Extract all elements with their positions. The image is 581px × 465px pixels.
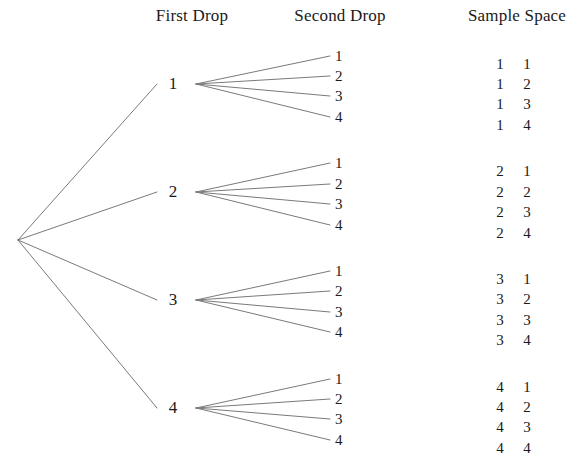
outcome-second-value: 4 bbox=[523, 225, 531, 242]
outcome-first-value: 3 bbox=[496, 312, 504, 329]
outcome-second-value: 3 bbox=[523, 96, 531, 113]
outcome-second-value: 1 bbox=[523, 56, 531, 73]
second-drop-leaf-label: 2 bbox=[335, 391, 343, 408]
second-drop-leaf-label: 4 bbox=[335, 432, 343, 449]
second-drop-leaf-label: 3 bbox=[335, 304, 343, 321]
first-drop-node-1: 1 bbox=[169, 74, 178, 94]
outcome-first-value: 2 bbox=[496, 184, 504, 201]
outcome-second-value: 3 bbox=[523, 312, 531, 329]
second-drop-leaf-label: 3 bbox=[335, 196, 343, 213]
first-drop-branch-line bbox=[18, 240, 157, 300]
second-drop-leaf-label: 1 bbox=[335, 48, 343, 65]
outcome-second-value: 3 bbox=[523, 419, 531, 436]
first-drop-branch-line bbox=[18, 84, 157, 240]
second-drop-leaf-label: 3 bbox=[335, 88, 343, 105]
second-drop-branch-line bbox=[196, 408, 330, 419]
probability-tree-diagram: First DropSecond DropSample Space 1234 1… bbox=[0, 0, 581, 465]
tree-branch-lines bbox=[0, 0, 581, 465]
outcome-first-value: 1 bbox=[496, 56, 504, 73]
second-drop-leaf-label: 1 bbox=[335, 155, 343, 172]
second-drop-branch-line bbox=[196, 192, 330, 225]
outcome-second-value: 4 bbox=[523, 440, 531, 457]
outcome-second-value: 1 bbox=[523, 271, 531, 288]
second-drop-leaf-label: 4 bbox=[335, 109, 343, 126]
second-drop-leaf-label: 2 bbox=[335, 283, 343, 300]
outcome-first-value: 4 bbox=[496, 379, 504, 396]
second-drop-leaf-label: 1 bbox=[335, 371, 343, 388]
first-drop-node-4: 4 bbox=[169, 398, 178, 418]
second-drop-branch-line bbox=[196, 84, 330, 117]
outcome-first-value: 1 bbox=[496, 76, 504, 93]
column-header: Sample Space bbox=[468, 6, 566, 26]
outcome-first-value: 3 bbox=[496, 291, 504, 308]
outcome-first-value: 4 bbox=[496, 419, 504, 436]
outcome-first-value: 2 bbox=[496, 204, 504, 221]
second-drop-branch-line bbox=[196, 300, 330, 332]
outcome-second-value: 2 bbox=[523, 184, 531, 201]
first-drop-node-2: 2 bbox=[169, 182, 178, 202]
second-drop-leaf-label: 3 bbox=[335, 411, 343, 428]
outcome-second-value: 2 bbox=[523, 399, 531, 416]
column-header: First Drop bbox=[156, 6, 228, 26]
outcome-second-value: 2 bbox=[523, 291, 531, 308]
outcome-first-value: 4 bbox=[496, 440, 504, 457]
first-drop-branch-line bbox=[18, 240, 157, 408]
outcome-second-value: 3 bbox=[523, 204, 531, 221]
outcome-first-value: 3 bbox=[496, 332, 504, 349]
second-drop-leaf-label: 1 bbox=[335, 263, 343, 280]
second-drop-leaf-label: 2 bbox=[335, 68, 343, 85]
outcome-second-value: 2 bbox=[523, 76, 531, 93]
second-drop-leaf-label: 4 bbox=[335, 217, 343, 234]
outcome-first-value: 4 bbox=[496, 399, 504, 416]
second-drop-leaf-label: 4 bbox=[335, 324, 343, 341]
first-drop-node-3: 3 bbox=[169, 290, 178, 310]
outcome-second-value: 4 bbox=[523, 332, 531, 349]
outcome-first-value: 2 bbox=[496, 163, 504, 180]
outcome-first-value: 1 bbox=[496, 117, 504, 134]
outcome-second-value: 1 bbox=[523, 379, 531, 396]
second-drop-branch-line bbox=[196, 300, 330, 312]
second-drop-branch-line bbox=[196, 408, 330, 440]
second-drop-branch-line bbox=[196, 84, 330, 96]
outcome-first-value: 2 bbox=[496, 225, 504, 242]
second-drop-leaf-label: 2 bbox=[335, 176, 343, 193]
outcome-second-value: 4 bbox=[523, 117, 531, 134]
outcome-first-value: 3 bbox=[496, 271, 504, 288]
outcome-first-value: 1 bbox=[496, 96, 504, 113]
outcome-second-value: 1 bbox=[523, 163, 531, 180]
second-drop-branch-line bbox=[196, 192, 330, 204]
column-header: Second Drop bbox=[294, 6, 385, 26]
